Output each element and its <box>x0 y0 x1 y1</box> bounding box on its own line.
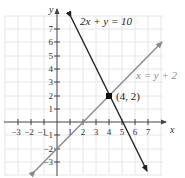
svg-text:3: 3 <box>94 127 99 137</box>
x-axis-label: x <box>169 124 175 135</box>
svg-text:4: 4 <box>107 127 112 137</box>
intersection-label: (4, 2) <box>116 90 140 103</box>
graph: y x −3 −2 −1 1 2 3 4 5 6 7 7 6 5 4 3 2 1… <box>0 0 185 178</box>
svg-text:6: 6 <box>133 127 138 137</box>
svg-text:1: 1 <box>49 104 54 114</box>
svg-text:−2: −2 <box>43 144 53 154</box>
svg-text:2: 2 <box>81 127 86 137</box>
svg-text:7: 7 <box>49 24 54 34</box>
svg-text:4: 4 <box>49 64 54 74</box>
line1-label: 2x + y = 10 <box>80 15 133 27</box>
svg-text:3: 3 <box>49 77 54 87</box>
line-x-equals-y-plus-2 <box>35 42 162 171</box>
svg-text:−3: −3 <box>43 157 53 167</box>
svg-text:−2: −2 <box>24 127 34 137</box>
line2-label: x = y + 2 <box>135 69 178 81</box>
y-axis-label: y <box>48 4 54 15</box>
svg-text:7: 7 <box>146 127 151 137</box>
svg-text:2: 2 <box>49 91 54 101</box>
svg-text:−1: −1 <box>43 130 53 140</box>
intersection-point <box>106 93 112 99</box>
axes <box>4 9 166 176</box>
svg-text:5: 5 <box>120 127 125 137</box>
svg-text:6: 6 <box>49 37 54 47</box>
svg-text:−3: −3 <box>11 127 21 137</box>
svg-text:5: 5 <box>49 51 54 61</box>
